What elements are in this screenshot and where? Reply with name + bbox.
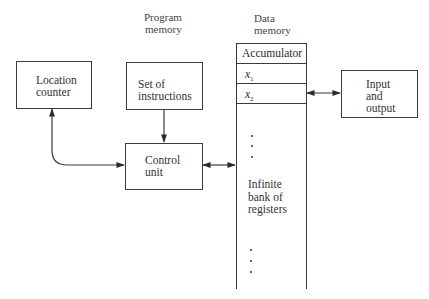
ellipsis-dot bbox=[250, 271, 252, 273]
location-counter-label: Location counter bbox=[36, 74, 77, 98]
register-label: x1 bbox=[245, 68, 254, 83]
control-unit-box: Control unit bbox=[125, 143, 203, 190]
label-line: registers bbox=[248, 203, 287, 216]
label-line: counter bbox=[36, 86, 77, 98]
var-sub: 1 bbox=[250, 75, 254, 83]
label-line: unit bbox=[145, 166, 180, 178]
register-accumulator: Accumulator bbox=[237, 44, 306, 64]
var-sub: 2 bbox=[250, 95, 254, 103]
location-counter-box: Location counter bbox=[16, 61, 92, 109]
label-line: Set of bbox=[138, 78, 192, 90]
label-line: instructions bbox=[138, 90, 192, 102]
register-label: x2 bbox=[245, 88, 254, 103]
data-memory-column: Accumulator x1 x2 Infinite bank of regis… bbox=[236, 43, 307, 289]
ellipsis-dot bbox=[250, 260, 252, 262]
control-unit-label: Control unit bbox=[145, 154, 180, 178]
set-of-instructions-label: Set of instructions bbox=[138, 78, 192, 102]
input-output-label: Input and output bbox=[366, 78, 395, 114]
label-line: and bbox=[366, 90, 395, 102]
register-label: Accumulator bbox=[242, 47, 302, 59]
ellipsis-dot bbox=[250, 249, 252, 251]
register-x1: x1 bbox=[237, 64, 306, 84]
label-line: Infinite bbox=[248, 178, 287, 191]
infinite-bank-label: Infinite bank of registers bbox=[248, 178, 287, 216]
arrow-location-control bbox=[52, 109, 124, 165]
label-line: bank of bbox=[248, 191, 287, 204]
label-line: Control bbox=[145, 154, 180, 166]
input-output-box: Input and output bbox=[341, 70, 418, 118]
register-x2: x2 bbox=[237, 84, 306, 104]
set-of-instructions-box: Set of instructions bbox=[126, 62, 203, 110]
ellipsis-dot bbox=[251, 145, 253, 147]
connector-arrows bbox=[0, 0, 429, 299]
label-line: output bbox=[366, 102, 395, 114]
ellipsis-dot bbox=[251, 156, 253, 158]
label-line: Location bbox=[36, 74, 77, 86]
ellipsis-dot bbox=[251, 135, 253, 137]
label-line: Input bbox=[366, 78, 395, 90]
